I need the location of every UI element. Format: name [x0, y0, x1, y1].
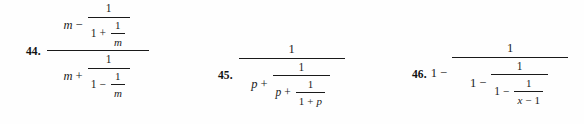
- exercise-46-numerator-value: 1: [507, 41, 513, 55]
- exercise-45-level3-denominator: 1 + p: [296, 95, 325, 108]
- fraction-bar: [111, 33, 125, 34]
- exercise-45-level2-den-operator: +: [281, 86, 294, 99]
- fraction-bar: [273, 75, 330, 76]
- exercise-46-level3-den-operator: −: [522, 94, 534, 107]
- exercise-46-level2-numerator-value: 1: [517, 60, 523, 73]
- exercise-45-main-fraction: 1 p + 1 p +: [239, 42, 345, 107]
- exercise-46-lead-operator: −: [437, 66, 450, 81]
- exercise-44-num-operator: −: [73, 18, 86, 32]
- exercise-46-numerator: 1: [504, 41, 516, 55]
- exercise-44-num-inner-numerator-value: 1: [106, 2, 112, 15]
- exercise-45: 45. 1 p + 1 p: [218, 42, 347, 107]
- exercise-45-level3-numerator-value: 1: [308, 78, 314, 91]
- exercise-page: 44. m − 1 1 +: [0, 0, 584, 124]
- exercise-44-den-inner-den-operator: −: [96, 78, 109, 91]
- exercise-45-level2-numerator: 1: [295, 61, 307, 74]
- exercise-44-den-inner-numerator-value: 1: [106, 53, 112, 66]
- exercise-46-number: 46.: [412, 68, 427, 80]
- exercise-45-level3-den-right: p: [317, 95, 323, 108]
- exercise-46-level3-denominator: x − 1: [514, 94, 543, 107]
- exercise-45-numerator-value: 1: [289, 42, 295, 56]
- exercise-44-num-term: m − 1 1 +: [64, 2, 132, 49]
- exercise-46-level3-fraction: 1 x − 1: [514, 77, 543, 106]
- exercise-46-level2-numerator: 1: [514, 60, 526, 73]
- exercise-46-level2-fraction: 1 1 − 1: [491, 60, 548, 107]
- exercise-44-main-fraction-bar: [47, 50, 149, 51]
- exercise-46-level3-den-right: 1: [535, 94, 541, 107]
- fraction-bar: [514, 91, 543, 92]
- fraction-bar: [491, 74, 548, 75]
- exercise-46-level2-den-operator: −: [500, 85, 513, 98]
- exercise-44-number: 44.: [26, 45, 41, 57]
- exercise-45-level3-den-operator: +: [304, 95, 316, 108]
- exercise-46-main-fraction: 1 1 − 1 1: [452, 41, 568, 106]
- exercise-44-num-inner-denominator: 1 + 1 m: [88, 19, 130, 48]
- exercise-44-den-term: m + 1 1 −: [64, 53, 132, 100]
- exercise-45-level3-den-term: 1 + p: [299, 95, 322, 108]
- exercise-44-den-innermost-numerator-value: 1: [115, 70, 121, 83]
- exercise-44-num-innermost-numerator: 1: [112, 19, 124, 32]
- exercise-45-level3-numerator: 1: [305, 78, 317, 91]
- fraction-bar: [88, 17, 130, 18]
- exercise-46: 46. 1 − 1 1 − 1: [412, 41, 570, 106]
- exercise-45-main-fraction-bar: [239, 58, 345, 59]
- exercise-44-num-innermost-numerator-value: 1: [115, 19, 121, 32]
- exercise-46-level3-den-term: x − 1: [517, 94, 540, 107]
- exercise-46-denominator: 1 − 1 1 −: [467, 60, 553, 107]
- exercise-44-num-inner-den-term: 1 + 1 m: [91, 19, 127, 48]
- exercise-44-den-operator: +: [73, 69, 86, 83]
- fraction-bar: [296, 92, 325, 93]
- exercise-46-main-fraction-bar: [452, 57, 568, 58]
- exercise-44-num-inner-numerator: 1: [103, 2, 115, 15]
- exercise-44-den-innermost-denominator-value: m: [114, 87, 122, 100]
- exercise-46-den-term: 1 − 1 1 −: [470, 60, 550, 107]
- exercise-45-level2-fraction: 1 p + 1: [273, 61, 330, 108]
- exercise-44-den-inner-den-term: 1 − 1 m: [91, 70, 127, 99]
- exercise-44-den-innermost-denominator: m: [111, 87, 125, 100]
- fraction-bar: [88, 68, 130, 69]
- exercise-44-den-inner-numerator: 1: [103, 53, 115, 66]
- fraction-bar: [111, 84, 125, 85]
- exercise-46-level2-den-term: 1 − 1 x: [494, 77, 545, 106]
- exercise-44-den-innermost-numerator: 1: [112, 70, 124, 83]
- exercise-45-numerator: 1: [286, 42, 298, 56]
- exercise-45-den-operator: +: [258, 77, 271, 91]
- exercise-45-level2-den-term: p + 1 1: [276, 78, 327, 107]
- exercise-44-num-innermost-denominator: m: [111, 36, 125, 49]
- exercise-44-numerator: m − 1 1 +: [61, 2, 135, 49]
- exercise-44: 44. m − 1 1 +: [26, 2, 151, 99]
- exercise-46-expression: 1 − 1 1 − 1: [431, 41, 570, 106]
- exercise-44-num-innermost-fraction: 1 m: [111, 19, 125, 48]
- exercise-45-level2-denominator: p + 1 1: [273, 78, 330, 107]
- exercise-46-den-operator: −: [476, 76, 489, 90]
- exercise-44-den-inner-fraction: 1 1 − 1: [88, 53, 130, 100]
- exercise-44-num-inner-fraction: 1 1 + 1: [88, 2, 130, 49]
- exercise-44-num-lead-var: m: [64, 18, 73, 32]
- exercise-44-den-lead-var: m: [64, 69, 73, 83]
- exercise-46-level3-numerator: 1: [523, 77, 535, 90]
- exercise-44-den-inner-denominator: 1 − 1 m: [88, 70, 130, 99]
- exercise-45-denominator: p + 1 p +: [248, 61, 335, 108]
- exercise-45-den-term: p + 1 p +: [251, 61, 332, 108]
- exercise-44-den-innermost-fraction: 1 m: [111, 70, 125, 99]
- exercise-44-num-inner-den-operator: +: [96, 27, 109, 40]
- exercise-45-number: 45.: [218, 69, 233, 81]
- exercise-45-level2-numerator-value: 1: [298, 61, 304, 74]
- exercise-44-main-fraction: m − 1 1 +: [47, 2, 149, 99]
- exercise-46-level2-denominator: 1 − 1 x: [491, 77, 548, 106]
- exercise-45-level3-fraction: 1 1 + p: [296, 78, 325, 107]
- exercise-44-num-innermost-denominator-value: m: [114, 36, 122, 49]
- exercise-44-denominator: m + 1 1 −: [61, 53, 135, 100]
- exercise-46-level3-numerator-value: 1: [526, 77, 532, 90]
